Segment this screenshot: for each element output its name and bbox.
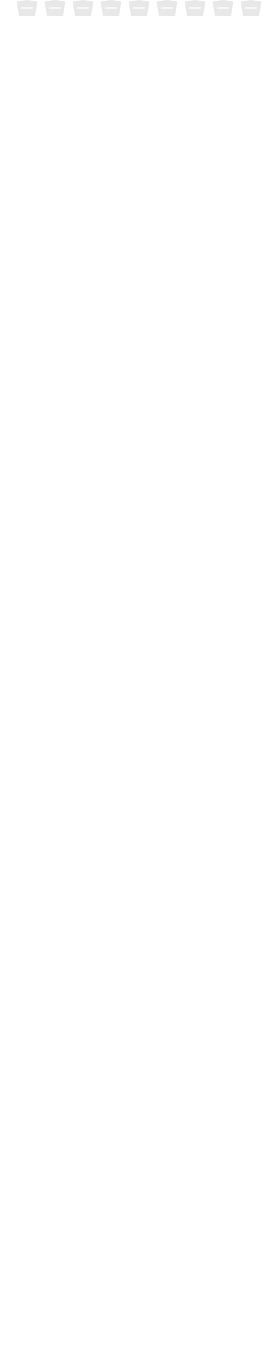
pentagon-inner-line [77,7,89,9]
pentagon-icon [17,0,38,16]
pentagon-icon [241,0,262,16]
pentagon-inner-line [133,7,145,9]
pentagon-inner-line [189,7,201,9]
pentagon-inner-line [217,7,229,9]
pentagon-icon [129,0,150,16]
pentagon-inner-line [21,7,33,9]
pentagon-icon [45,0,66,16]
pentagon-icon [157,0,178,16]
pentagon-icon [185,0,206,16]
pentagon-inner-line [161,7,173,9]
document-page [0,0,278,1347]
pentagon-icon [101,0,122,16]
pentagon-inner-line [49,7,61,9]
pentagon-icon [213,0,234,16]
pentagon-inner-line [105,7,117,9]
pentagon-inner-line [245,7,257,9]
pentagon-icon-row [0,0,278,22]
pentagon-icon [73,0,94,16]
